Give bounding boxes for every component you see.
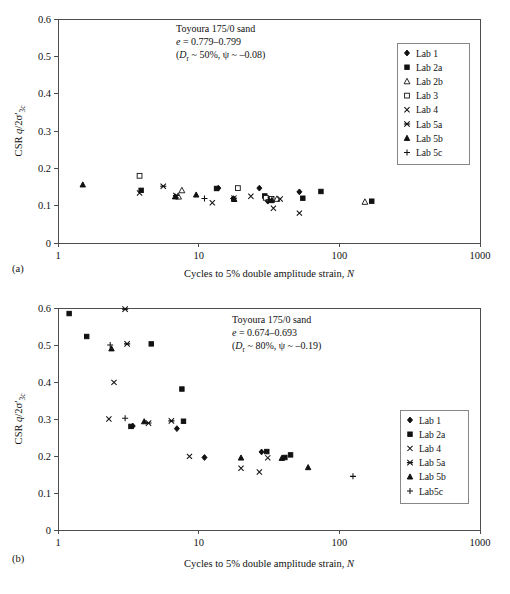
data-point-lab-5b xyxy=(80,182,85,187)
marker-filled-square xyxy=(129,424,133,428)
data-point-lab-2a xyxy=(319,189,323,193)
data-point-lab-4 xyxy=(187,454,192,459)
panel-a-annotation-line2: e = 0.779–0.799 xyxy=(176,36,241,47)
data-point-lab-4 xyxy=(238,466,243,471)
data-point-lab-2a xyxy=(288,453,292,457)
panel-a-data-points xyxy=(80,173,374,215)
panel-b-x-ticks: 1101001000 xyxy=(55,530,490,548)
panel-a-annotation-line1: Toyoura 175/0 sand xyxy=(176,23,255,34)
panel-a-x-axis-title: Cycles to 5% double amplitude strain, N xyxy=(184,268,355,279)
data-point-lab-4 xyxy=(248,194,253,199)
marker-cross-x xyxy=(248,194,253,199)
x-tick-label: 1 xyxy=(55,537,60,548)
data-point-lab-5b xyxy=(305,465,310,470)
marker-filled-square xyxy=(319,189,323,193)
data-point-lab-5a xyxy=(122,306,128,311)
panel-a-annotation-line3: (Dr ~ 50%, ψ ~ –0.08) xyxy=(176,49,265,63)
panel-a-y-ticks: 00.10.20.30.40.50.6 xyxy=(38,14,58,249)
legend-item-label: Lab 5a xyxy=(416,119,443,130)
data-point-lab-2a xyxy=(149,342,153,346)
marker-filled-square xyxy=(67,311,71,315)
x-tick-label: 1 xyxy=(55,250,60,261)
data-point-lab-5a xyxy=(124,341,130,346)
data-point-lab-1 xyxy=(174,426,179,432)
figure-container: 00.10.20.30.40.50.6 1101001000 Cycles to… xyxy=(0,0,510,594)
marker-filled-square xyxy=(288,453,292,457)
data-point-lab-1 xyxy=(257,185,262,191)
panel-b-annotation-line3: (Dr ~ 80%, ψ ~ –0.19) xyxy=(232,340,321,354)
y-tick-label: 0.5 xyxy=(38,340,51,351)
marker-filled-triangle xyxy=(305,465,310,470)
marker-filled-triangle xyxy=(238,455,243,460)
data-point-lab-4 xyxy=(265,455,270,460)
panel-a-annotation: Toyoura 175/0 sand e = 0.779–0.799 (Dr ~… xyxy=(176,23,265,63)
marker-cross-x xyxy=(257,469,262,474)
y-tick-label: 0.4 xyxy=(38,88,52,99)
marker-filled-diamond xyxy=(174,426,179,432)
panel-a-x-ticks: 1101001000 xyxy=(55,243,490,261)
data-point-lab-4 xyxy=(297,211,302,216)
data-point-lab-2a xyxy=(180,387,184,391)
legend-item-label: Lab 3 xyxy=(416,90,438,101)
marker-plus xyxy=(122,415,128,421)
data-point-lab-1 xyxy=(259,449,264,455)
legend-item-label: Lab 5b xyxy=(419,471,446,482)
panel-b-annotation: Toyoura 175/0 sand e = 0.674–0.693 (Dr ~… xyxy=(232,314,321,354)
y-tick-label: 0.2 xyxy=(38,451,51,462)
y-tick-label: 0.1 xyxy=(38,488,51,499)
marker-filled-diamond xyxy=(202,455,207,461)
y-tick-label: 0 xyxy=(46,525,51,536)
marker-cross-x xyxy=(187,454,192,459)
marker-star-x xyxy=(160,184,166,189)
data-point-lab-2b xyxy=(362,199,368,205)
panel-a-y-axis-title: CSR q/2σ′3c xyxy=(13,105,27,157)
marker-plus xyxy=(350,473,356,479)
marker-cross-x xyxy=(111,380,116,385)
marker-open-square xyxy=(235,186,240,191)
panel-b-annotation-line2: e = 0.674–0.693 xyxy=(232,327,297,338)
legend-item-label: Lab 1 xyxy=(419,415,441,426)
data-point-lab-2a xyxy=(214,186,218,190)
legend-marker-filled-square xyxy=(405,65,409,69)
marker-filled-square xyxy=(180,387,184,391)
data-point-lab-3 xyxy=(137,173,142,178)
panel-b-data-points xyxy=(67,306,356,479)
data-point-lab-2a xyxy=(181,419,185,423)
marker-cross-x xyxy=(210,200,215,205)
marker-filled-square xyxy=(301,196,305,200)
marker-filled-square xyxy=(85,334,89,338)
data-point-lab-5b xyxy=(238,455,243,460)
data-point-lab-5c xyxy=(350,473,356,479)
marker-open-square xyxy=(137,173,142,178)
marker-star-x xyxy=(122,306,128,311)
data-point-lab-2a xyxy=(129,424,133,428)
y-tick-label: 0.3 xyxy=(38,414,51,425)
panel-b-y-axis-title: CSR q/2σ′3c xyxy=(13,393,27,445)
data-point-lab-4 xyxy=(210,200,215,205)
legend-item-label: Lab 2a xyxy=(419,429,446,440)
data-point-lab-2a xyxy=(265,449,269,453)
data-point-lab-2a xyxy=(85,334,89,338)
marker-filled-triangle xyxy=(141,419,146,424)
y-tick-label: 0.6 xyxy=(38,303,51,314)
marker-cross-x xyxy=(265,455,270,460)
marker-filled-square xyxy=(370,199,374,203)
marker-open-triangle xyxy=(179,187,185,193)
legend-item-label: Lab 5b xyxy=(416,133,443,144)
data-point-lab-5c xyxy=(201,196,207,202)
marker-filled-triangle xyxy=(80,182,85,187)
data-point-lab-5b xyxy=(141,419,146,424)
marker-cross-x xyxy=(238,466,243,471)
marker-filled-square xyxy=(214,186,218,190)
marker-filled-triangle xyxy=(193,192,198,197)
marker-cross-x xyxy=(271,206,276,211)
y-tick-label: 0.3 xyxy=(38,126,51,137)
panel-a-legend[interactable]: Lab 1Lab 2aLab 2bLab 3Lab 4Lab 5aLab 5bL… xyxy=(397,43,469,165)
chart-panel-b: 00.10.20.30.40.50.6 1101001000 Cycles to… xyxy=(0,290,510,594)
legend-item-label: Lab5c xyxy=(419,486,443,497)
legend-item-label: Lab 5a xyxy=(419,457,446,468)
marker-filled-square xyxy=(265,449,269,453)
data-point-lab-5a xyxy=(168,418,174,423)
panel-b-legend[interactable]: Lab 1Lab 2aLab 4Lab 5aLab 5bLab5c xyxy=(400,410,468,503)
marker-filled-diamond xyxy=(297,189,302,195)
